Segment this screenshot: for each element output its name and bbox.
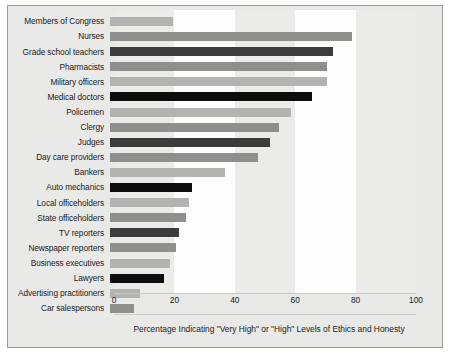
x-tick-label: 100 <box>409 295 423 305</box>
bar-category-label: Advertising practitioners <box>8 289 110 297</box>
caption-divider <box>114 314 416 315</box>
bar-category-label: Nurses <box>8 32 110 40</box>
bar-row: Auto mechanics <box>8 180 444 195</box>
bar-track <box>110 59 444 74</box>
bar-category-label: Policemen <box>8 108 110 116</box>
bar-category-label: Bankers <box>8 168 110 176</box>
bar-track <box>110 195 444 210</box>
bar-row: Clergy <box>8 120 444 135</box>
chart-frame: Members of CongressNursesGrade school te… <box>7 5 443 348</box>
bar <box>110 243 176 252</box>
bar-track <box>110 180 444 195</box>
x-tick-label: 80 <box>351 295 360 305</box>
x-axis: 020406080100 <box>114 293 416 309</box>
x-axis-caption: Percentage Indicating "Very High" or "Hi… <box>114 324 424 334</box>
bar-category-label: Lawyers <box>8 274 110 282</box>
x-tick-label: 20 <box>170 295 179 305</box>
bar-row: Policemen <box>8 105 444 120</box>
bar-row: Newspaper reporters <box>8 240 444 255</box>
bar-category-label: Car salespersons <box>8 304 110 312</box>
bar <box>110 77 327 86</box>
bar-row: State officeholders <box>8 210 444 225</box>
bar-track <box>110 240 444 255</box>
bar <box>110 228 179 237</box>
bar-category-label: Grade school teachers <box>8 48 110 56</box>
bar-track <box>110 150 444 165</box>
bar-category-label: Medical doctors <box>8 93 110 101</box>
bar-chart: Members of CongressNursesGrade school te… <box>8 6 444 349</box>
bar-row: Lawyers <box>8 271 444 286</box>
bar-row: TV reporters <box>8 225 444 240</box>
bar-track <box>110 29 444 44</box>
bar-row: Grade school teachers <box>8 44 444 59</box>
x-axis-line <box>114 293 416 294</box>
bar-row: Day care providers <box>8 150 444 165</box>
bar-track <box>110 271 444 286</box>
bar-category-label: State officeholders <box>8 214 110 222</box>
bar-track <box>110 120 444 135</box>
bar <box>110 123 279 132</box>
bar <box>110 47 333 56</box>
bar <box>110 259 170 268</box>
bar-track <box>110 14 444 29</box>
bar <box>110 138 270 147</box>
bar-track <box>110 165 444 180</box>
bar <box>110 62 327 71</box>
bar <box>110 153 258 162</box>
bar <box>110 168 225 177</box>
bar-row: Military officers <box>8 74 444 89</box>
bar <box>110 213 186 222</box>
bar-track <box>110 135 444 150</box>
bar-category-label: Military officers <box>8 78 110 86</box>
bar-category-label: Judges <box>8 138 110 146</box>
bar-track <box>110 44 444 59</box>
bar-track <box>110 74 444 89</box>
bar-category-label: Clergy <box>8 123 110 131</box>
bar-track <box>110 256 444 271</box>
bar-track <box>110 105 444 120</box>
bar <box>110 17 173 26</box>
x-tick-label: 40 <box>230 295 239 305</box>
bar <box>110 92 312 101</box>
bar <box>110 183 192 192</box>
bar-category-label: Members of Congress <box>8 17 110 25</box>
bar-row: Members of Congress <box>8 14 444 29</box>
bar-row: Judges <box>8 135 444 150</box>
bar-category-label: Business executives <box>8 259 110 267</box>
bar-track <box>110 89 444 104</box>
bar-rows: Members of CongressNursesGrade school te… <box>8 14 444 316</box>
bar-row: Local officeholders <box>8 195 444 210</box>
bar-track <box>110 225 444 240</box>
bar <box>110 32 352 41</box>
bar-row: Bankers <box>8 165 444 180</box>
bar-category-label: Auto mechanics <box>8 183 110 191</box>
bar-track <box>110 210 444 225</box>
bar-category-label: Newspaper reporters <box>8 244 110 252</box>
bar <box>110 274 164 283</box>
bar <box>110 108 291 117</box>
bar-row: Medical doctors <box>8 89 444 104</box>
bar-row: Pharmacists <box>8 59 444 74</box>
bar-category-label: TV reporters <box>8 229 110 237</box>
bar <box>110 198 189 207</box>
bar-category-label: Pharmacists <box>8 63 110 71</box>
bar-category-label: Day care providers <box>8 153 110 161</box>
x-tick-label: 0 <box>112 295 117 305</box>
bar-row: Nurses <box>8 29 444 44</box>
x-tick-label: 60 <box>291 295 300 305</box>
bar-row: Business executives <box>8 256 444 271</box>
bar-category-label: Local officeholders <box>8 199 110 207</box>
